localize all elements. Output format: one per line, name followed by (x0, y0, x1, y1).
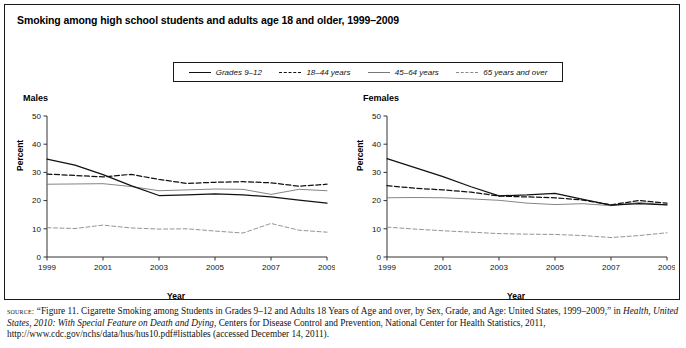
legend-item-18-44-years: 18–44 years (279, 68, 350, 77)
svg-text:1999: 1999 (378, 263, 396, 272)
legend-line-swatch-icon (189, 72, 211, 73)
svg-text:40: 40 (32, 140, 41, 149)
series-line (47, 174, 327, 186)
svg-text:1999: 1999 (38, 263, 56, 272)
series-line (387, 159, 667, 206)
chart-legend: Grades 9–12 18–44 years 45–64 years 65 y… (173, 62, 563, 82)
panel-title-males: Males (23, 93, 48, 103)
series-line (47, 159, 327, 203)
svg-text:2009: 2009 (318, 263, 335, 272)
source-note: source: “Figure 11. Cigarette Smoking am… (7, 306, 679, 341)
svg-text:50: 50 (32, 112, 41, 121)
svg-text:20: 20 (32, 196, 41, 205)
svg-text:40: 40 (372, 140, 381, 149)
svg-text:2001: 2001 (94, 263, 112, 272)
source-text-part1: “Figure 11. Cigarette Smoking among Stud… (34, 306, 623, 316)
svg-text:2007: 2007 (602, 263, 620, 272)
svg-text:0: 0 (377, 253, 382, 262)
svg-text:50: 50 (372, 112, 381, 121)
series-line (47, 223, 327, 233)
svg-text:30: 30 (32, 168, 41, 177)
svg-text:10: 10 (372, 225, 381, 234)
plot-area-females: 01020304050199920012003200520072009 (357, 108, 675, 283)
svg-text:20: 20 (372, 196, 381, 205)
legend-item-label: 65 years and over (483, 68, 547, 77)
svg-text:2009: 2009 (658, 263, 675, 272)
legend-line-swatch-icon (456, 72, 478, 73)
source-label: source: (7, 306, 34, 316)
figure-title: Smoking among high school students and a… (17, 14, 399, 26)
line-chart-females: 01020304050199920012003200520072009 (357, 108, 675, 283)
svg-text:2001: 2001 (434, 263, 452, 272)
legend-item-grades-9-12: Grades 9–12 (189, 68, 262, 77)
series-line (47, 184, 327, 195)
line-chart-males: 01020304050199920012003200520072009 (17, 108, 335, 283)
svg-text:0: 0 (37, 253, 42, 262)
legend-line-swatch-icon (279, 72, 301, 73)
legend-item-65-years-and-over: 65 years and over (456, 68, 547, 77)
plot-area-males: 01020304050199920012003200520072009 (17, 108, 335, 283)
legend-item-45-64-years: 45–64 years (368, 68, 439, 77)
svg-text:10: 10 (32, 225, 41, 234)
svg-text:30: 30 (372, 168, 381, 177)
figure-frame: Smoking among high school students and a… (4, 4, 680, 300)
x-axis-label-males: Year (17, 291, 335, 301)
panel-title-females: Females (363, 93, 399, 103)
svg-text:2003: 2003 (490, 263, 508, 272)
legend-item-label: 45–64 years (395, 68, 439, 77)
svg-text:2005: 2005 (546, 263, 564, 272)
legend-line-swatch-icon (368, 72, 390, 73)
svg-text:2005: 2005 (206, 263, 224, 272)
svg-text:2003: 2003 (150, 263, 168, 272)
svg-text:2007: 2007 (262, 263, 280, 272)
legend-item-label: Grades 9–12 (216, 68, 262, 77)
x-axis-label-females: Year (357, 291, 675, 301)
legend-item-label: 18–44 years (306, 68, 350, 77)
series-line (387, 227, 667, 237)
